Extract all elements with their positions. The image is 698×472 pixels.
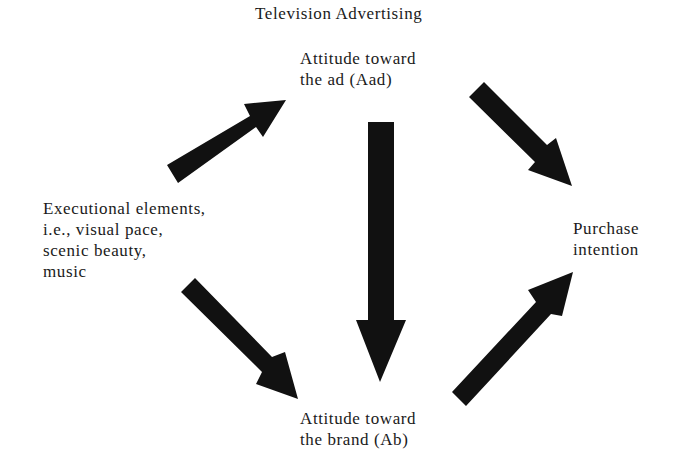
arrow-aad-to-ab-icon	[356, 122, 406, 382]
node-attitude-toward-brand: Attitude toward the brand (Ab)	[300, 408, 416, 450]
node-purchase-intention: Purchase intention	[573, 218, 639, 260]
advertising-model-diagram: Television Advertising Attitude toward t…	[0, 0, 698, 472]
node-attitude-toward-ad: Attitude toward the ad (Aad)	[300, 48, 416, 90]
node-executional-elements: Executional elements, i.e., visual pace,…	[43, 198, 206, 282]
diagram-title: Television Advertising	[255, 3, 422, 24]
arrow-aad-to-pi-icon	[469, 82, 572, 186]
arrow-exec-to-ab-icon	[181, 278, 298, 399]
arrow-ab-to-pi-icon	[452, 272, 573, 406]
arrow-exec-to-aad-icon	[167, 100, 286, 183]
